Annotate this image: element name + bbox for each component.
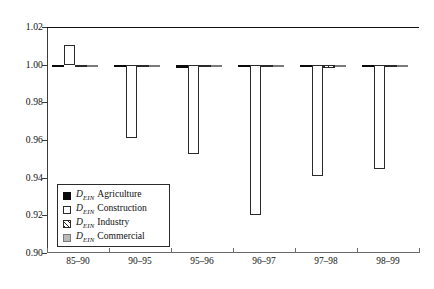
bar-industry-85-90 <box>75 65 87 67</box>
x-tick <box>295 248 296 253</box>
bar-construction-96-97 <box>250 65 262 215</box>
x-tick <box>233 248 234 253</box>
bar-agriculture-85-90 <box>52 65 64 67</box>
y-tick <box>42 140 47 141</box>
bar-industry-96-97 <box>261 65 273 67</box>
legend-item-commercial[interactable]: DEINCommercial <box>63 231 164 245</box>
legend-swatch-industry-icon <box>63 220 71 228</box>
bar-agriculture-90-95 <box>114 65 126 67</box>
legend-item-industry[interactable]: DEINIndustry <box>63 217 164 231</box>
legend-swatch-construction-icon <box>63 206 71 214</box>
bar-construction-90-95 <box>126 65 138 138</box>
bar-agriculture-95-96 <box>176 65 188 68</box>
y-tick <box>42 178 47 179</box>
bar-industry-90-95 <box>137 65 149 67</box>
bar-construction-85-90 <box>64 45 76 65</box>
bar-commercial-95-96 <box>211 65 223 67</box>
y-tick-label: 0.94 <box>26 173 43 183</box>
y-axis-labels: 1.021.000.980.960.940.920.90 <box>0 27 43 253</box>
y-tick <box>42 65 47 66</box>
x-tick-label: 90–95 <box>128 256 151 267</box>
bar-industry-97-98 <box>323 65 335 68</box>
legend-label: DEINIndustry <box>76 217 129 231</box>
x-axis-labels: 85–9090–9595–9696–9797–9898–99 <box>47 256 419 274</box>
legend-swatch-commercial-icon <box>63 234 71 242</box>
x-tick-label: 98–99 <box>376 256 399 267</box>
bar-commercial-96-97 <box>273 65 285 67</box>
x-tick <box>109 248 110 253</box>
chart-legend: DEINAgricultureDEINConstructionDEINIndus… <box>57 184 170 247</box>
bar-commercial-98-99 <box>397 65 409 67</box>
bar-construction-95-96 <box>188 65 200 154</box>
legend-label: DEINCommercial <box>76 231 145 245</box>
y-tick-label: 0.90 <box>26 248 43 258</box>
x-tick <box>47 248 48 253</box>
y-tick <box>42 27 47 28</box>
y-tick-label: 0.96 <box>26 135 43 145</box>
bar-commercial-85-90 <box>87 65 99 67</box>
bar-agriculture-98-99 <box>362 65 374 67</box>
bar-industry-95-96 <box>199 65 211 67</box>
y-tick <box>42 253 47 254</box>
y-tick-label: 0.92 <box>26 210 43 220</box>
legend-label: DEINAgriculture <box>76 189 142 203</box>
x-tick <box>171 248 172 253</box>
x-tick-label: 97–98 <box>314 256 337 267</box>
bar-commercial-97-98 <box>335 65 347 67</box>
bar-construction-97-98 <box>312 65 324 176</box>
x-tick-label: 95–96 <box>190 256 213 267</box>
y-tick <box>42 215 47 216</box>
legend-item-construction[interactable]: DEINConstruction <box>63 203 164 217</box>
bar-construction-98-99 <box>374 65 386 169</box>
x-tick-label: 85–90 <box>66 256 89 267</box>
x-tick <box>357 248 358 253</box>
chart-figure: 1.021.000.980.960.940.920.90 85–9090–959… <box>0 0 434 289</box>
y-tick-label: 1.00 <box>26 60 43 70</box>
legend-item-agriculture[interactable]: DEINAgriculture <box>63 189 164 203</box>
legend-label: DEINConstruction <box>76 203 147 217</box>
legend-swatch-agriculture-icon <box>63 192 71 200</box>
y-axis-line <box>47 27 48 253</box>
y-tick-label: 0.98 <box>26 97 43 107</box>
bar-agriculture-96-97 <box>238 65 250 67</box>
y-tick <box>42 102 47 103</box>
bar-industry-98-99 <box>385 65 397 67</box>
y-tick-label: 1.02 <box>26 22 43 32</box>
x-tick <box>419 248 420 253</box>
bar-commercial-90-95 <box>149 65 161 67</box>
bar-agriculture-97-98 <box>300 65 312 67</box>
x-tick-label: 96–97 <box>252 256 275 267</box>
baseline-1.00 <box>47 27 419 28</box>
